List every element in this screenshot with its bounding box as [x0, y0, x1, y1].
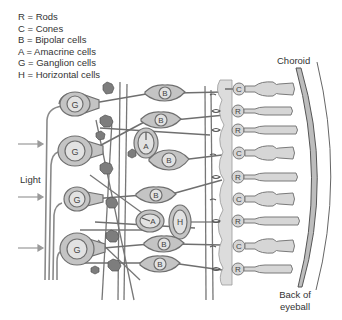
rod-label: R: [235, 173, 241, 182]
amacrine-cell: A: [134, 128, 158, 158]
choroid-label: Choroid: [277, 55, 310, 67]
ganglion-axons: [45, 106, 62, 280]
rod-cell: R: [232, 124, 298, 136]
choroid: [296, 62, 331, 290]
cone-label: C: [236, 85, 242, 94]
legend-item-amacrine: A = Amacrine cells: [18, 46, 100, 58]
ganglion-cell: G: [59, 92, 99, 116]
cone-label: C: [236, 149, 242, 158]
cone-label: C: [236, 242, 242, 251]
bipolar-cell: B: [136, 187, 176, 203]
legend-item-ganglion: G = Ganglion cells: [18, 57, 100, 69]
rod-label: R: [235, 107, 241, 116]
rod-cell: R: [232, 171, 298, 183]
bipolar-cells: B B B B B B: [136, 85, 189, 272]
ganglion-label: G: [71, 100, 78, 110]
ganglion-label: G: [73, 195, 80, 205]
back-of-eyeball-label: Back of eyeball: [275, 289, 315, 312]
ganglion-cells: G G G G: [58, 92, 105, 265]
ganglion-cell: G: [60, 233, 105, 265]
amacrine-cells: A A: [134, 128, 164, 232]
ganglion-label: G: [71, 147, 78, 157]
amacrine-cell: A: [136, 210, 164, 232]
bipolar-label: B: [166, 156, 171, 165]
bipolar-label: B: [161, 240, 166, 249]
bipolar-cell: B: [144, 236, 184, 252]
rod-label: R: [235, 265, 241, 274]
ganglion-cell: G: [64, 187, 103, 211]
bipolar-cell: B: [140, 256, 180, 272]
rod-cell: R: [232, 263, 293, 275]
cone-cell: C: [233, 239, 295, 253]
cone-cell: C: [225, 82, 295, 96]
bipolar-label: B: [157, 260, 162, 269]
amacrine-label: A: [150, 217, 156, 226]
back-of-eyeball-line1: Back of: [275, 289, 315, 301]
legend-item-horizontal: H = Horizontal cells: [18, 69, 100, 81]
amacrine-label: A: [143, 142, 149, 151]
cone-cell: C: [233, 192, 295, 206]
ganglion-cell: G: [58, 136, 103, 166]
legend-item-bipolar: B = Bipolar cells: [18, 34, 100, 46]
bipolar-label: B: [162, 89, 167, 98]
legend-item-cones: C = Cones: [18, 23, 100, 35]
bipolar-label: B: [158, 116, 163, 125]
cone-cell: C: [233, 146, 295, 160]
rod-label: R: [235, 126, 241, 135]
light-arrows: [18, 141, 43, 251]
legend: R = Rods C = Cones B = Bipolar cells A =…: [18, 11, 100, 81]
bipolar-cell: B: [141, 112, 181, 128]
rod-cell: R: [232, 105, 293, 117]
light-label: Light: [20, 174, 41, 186]
horizontal-label: H: [177, 217, 183, 227]
photoreceptors: C R R C R C: [225, 82, 300, 275]
legend-item-rods: R = Rods: [18, 11, 100, 23]
bipolar-cell: B: [145, 85, 185, 101]
rod-label: R: [235, 217, 241, 226]
cone-label: C: [236, 195, 242, 204]
bipolar-label: B: [153, 191, 158, 200]
back-of-eyeball-line2: eyeball: [275, 301, 315, 313]
ganglion-label: G: [73, 245, 80, 255]
rod-cell: R: [232, 215, 300, 227]
